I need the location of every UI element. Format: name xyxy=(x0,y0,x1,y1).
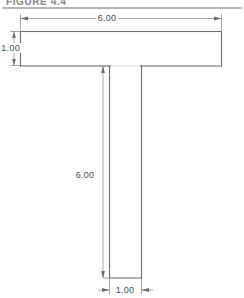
flange-rect xyxy=(21,32,222,67)
arrowhead-top xyxy=(101,66,105,73)
arrowhead-top xyxy=(12,32,16,39)
t-beam-drawing xyxy=(0,0,244,298)
web-rect xyxy=(110,66,142,278)
dimension-web-height xyxy=(103,66,110,278)
dimension-label-web-width: 1.00 xyxy=(114,285,137,295)
arrowhead-left xyxy=(21,16,29,20)
dimension-label-flange-thickness: 1.00 xyxy=(0,43,22,53)
t-section-outline xyxy=(21,32,222,279)
arrowhead-bottom xyxy=(12,59,16,66)
arrowhead-left xyxy=(102,288,110,292)
dimension-label-web-height: 6.00 xyxy=(74,170,97,180)
arrowhead-right xyxy=(142,288,150,292)
arrowhead-right xyxy=(214,16,222,20)
dimension-flange-width xyxy=(21,14,222,30)
dimension-label-flange-width: 6.00 xyxy=(96,13,119,23)
arrowhead-bottom xyxy=(101,271,105,278)
